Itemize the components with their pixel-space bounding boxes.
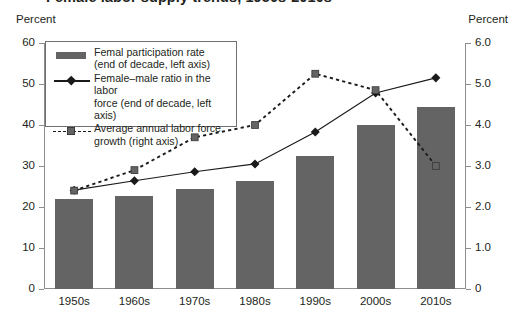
growth-marker-2000s	[372, 87, 379, 94]
solid-line-diamond-icon	[50, 74, 94, 88]
left-tick-label: 40	[22, 119, 35, 131]
right-tick-mark	[466, 248, 471, 249]
legend-item-participation-rate: Femal participation rate (end of decade,…	[50, 46, 232, 71]
chart-figure: Female labor supply trends, 1950s-2010s …	[0, 0, 516, 320]
dashed-line-square-icon	[50, 124, 94, 138]
right-tick-label: 1.0	[475, 242, 491, 254]
right-tick-mark	[466, 84, 471, 85]
growth-marker-1960s	[131, 167, 138, 174]
ratio-marker-1970s	[190, 167, 199, 176]
ratio-marker-1960s	[130, 176, 139, 185]
legend-label: Femal participation rate (end of decade,…	[94, 46, 210, 71]
left-tick-mark	[39, 289, 44, 290]
category-label-1990s: 1990s	[300, 296, 331, 308]
left-tick-label: 20	[22, 201, 35, 213]
growth-marker-1980s	[252, 122, 259, 129]
left-tick-label: 30	[22, 160, 35, 172]
ratio-marker-1990s	[311, 127, 320, 136]
legend-label: Female–male ratio in the labor force (en…	[94, 72, 232, 122]
right-tick-mark	[466, 289, 471, 290]
ratio-marker-1980s	[250, 159, 259, 168]
right-tick-mark	[466, 125, 471, 126]
right-axis-caption: Percent	[468, 13, 508, 25]
legend-item-female-male-ratio: Female–male ratio in the labor force (en…	[50, 72, 232, 122]
left-axis-caption: Percent	[16, 13, 56, 25]
category-label-1950s: 1950s	[58, 296, 89, 308]
right-tick-label: 2.0	[475, 201, 491, 213]
page-title: Female labor supply trends, 1950s-2010s	[46, 0, 332, 5]
right-tick-label: 0	[475, 283, 481, 295]
ratio-marker-2010s	[431, 73, 440, 82]
right-tick-mark	[466, 43, 471, 44]
right-tick-mark	[466, 166, 471, 167]
growth-marker-1990s	[312, 70, 319, 77]
growth-marker-1950s	[71, 187, 78, 194]
left-tick-label: 0	[29, 283, 35, 295]
right-tick-label: 5.0	[475, 78, 491, 90]
category-label-1970s: 1970s	[179, 296, 210, 308]
growth-marker-2010s	[432, 163, 439, 170]
chart-legend: Femal participation rate (end of decade,…	[45, 41, 237, 127]
right-tick-label: 6.0	[475, 37, 491, 49]
chart-title-strip: Female labor supply trends, 1950s-2010s	[0, 0, 516, 9]
left-tick-label: 60	[22, 37, 35, 49]
category-label-1960s: 1960s	[119, 296, 150, 308]
legend-label: Average annual labor force growth (right…	[94, 122, 221, 147]
category-label-2010s: 2010s	[420, 296, 451, 308]
bar-swatch-icon	[50, 48, 94, 62]
left-tick-label: 10	[22, 242, 35, 254]
legend-item-labor-force-growth: Average annual labor force growth (right…	[50, 122, 232, 147]
right-tick-label: 4.0	[475, 119, 491, 131]
right-tick-mark	[466, 207, 471, 208]
left-tick-label: 50	[22, 78, 35, 90]
category-label-2000s: 2000s	[360, 296, 391, 308]
category-label-1980s: 1980s	[239, 296, 270, 308]
right-tick-label: 3.0	[475, 160, 491, 172]
